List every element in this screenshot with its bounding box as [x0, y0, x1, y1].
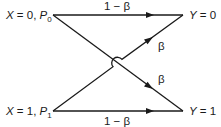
binary-channel-diagram: X = 0, P0 X = 1, P1 Y = 0 Y = 1 1 − β 1 … — [0, 0, 221, 127]
output-label-y0: Y = 0 — [189, 9, 216, 21]
edge-label: 1 − β — [104, 0, 131, 12]
arrowhead-icon — [146, 108, 154, 114]
edge-label: β — [158, 40, 165, 52]
output-label-y1: Y = 1 — [189, 105, 216, 117]
edge-label: 1 − β — [104, 115, 131, 127]
edge-x1-y1: 1 − β — [53, 108, 183, 127]
edge-label: β — [158, 73, 165, 85]
input-label-x1: X = 1, P1 — [5, 105, 52, 120]
edge-x0-y0: 1 − β — [53, 0, 183, 18]
arrowhead-icon — [146, 12, 154, 18]
input-label-x0: X = 0, P0 — [5, 9, 52, 24]
